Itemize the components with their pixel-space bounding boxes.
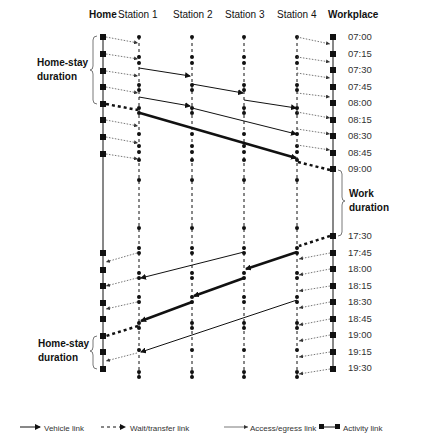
time-label: 07:30 [348,64,372,75]
time-label: 19:15 [348,346,372,357]
time-label: 18:15 [348,280,372,291]
legend-access-egress-link: Access/egress link [250,424,316,433]
header-station-4: Station 4 [277,9,316,20]
time-label: 08:00 [348,97,372,108]
bold-vehicle-links [140,113,297,321]
header-workplace: Workplace [328,9,378,20]
time-label: 08:45 [348,147,372,158]
time-label: 19:00 [348,329,372,340]
time-label: 18:45 [348,313,372,324]
header-station-2: Station 2 [173,9,212,20]
time-label: 17:45 [348,247,372,258]
legend-wait-transfer-link: Wait/transfer link [130,424,189,433]
time-label: 07:15 [348,48,372,59]
activity-nodes [100,34,336,372]
time-label: 17:30 [348,230,372,241]
time-label: 07:45 [348,81,372,92]
legend-activity-link: Activity link [343,424,383,433]
home-stay-duration-label-bottom: Home-stay duration [38,337,89,365]
time-label: 08:15 [348,114,372,125]
legend-vehicle-link: Vehicle link [44,424,84,433]
header-station-3: Station 3 [225,9,264,20]
work-duration-label: Work duration [349,187,389,215]
header-home: Home [89,9,117,20]
time-label: 19:30 [348,362,372,373]
vehicle-links [139,68,297,352]
station-nodes [137,35,299,379]
braces [90,36,345,369]
home-stay-duration-label-top: Home-stay duration [37,56,88,84]
time-label: 18:30 [348,296,372,307]
time-label: 18:00 [348,263,372,274]
time-label: 07:00 [348,31,372,42]
time-label: 09:00 [348,163,372,174]
time-label: 08:30 [348,130,372,141]
header-station-1: Station 1 [118,9,157,20]
